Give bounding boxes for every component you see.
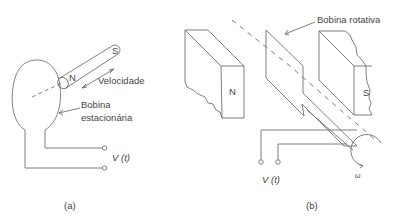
terminal-b-left [259, 160, 263, 164]
terminal-a-bottom [102, 166, 106, 170]
coil-b-label: Bobina rotativa [317, 15, 380, 25]
pole-n-label: N [229, 87, 236, 97]
wire-b-right [278, 144, 347, 160]
voltage-b-v: V [262, 174, 268, 185]
voltage-a-v: V [112, 152, 118, 163]
magnet-s-label: S [112, 46, 118, 56]
caption-a: (a) [64, 201, 76, 211]
axis-dashed-a [32, 82, 64, 97]
terminal-a-top [102, 146, 106, 150]
coil-a-label-2: estacionária [81, 113, 132, 123]
omega-label: ω [355, 172, 360, 179]
magnet-n-label: N [69, 73, 76, 83]
rotating-coil [266, 30, 357, 146]
pole-n [185, 30, 244, 118]
voltage-a-label: V (t) [112, 153, 130, 163]
diagram-canvas [0, 0, 396, 222]
terminal-b-right [276, 160, 280, 164]
pole-s-label: S [363, 88, 369, 98]
coil-a-label-1: Bobina [81, 100, 111, 110]
pole-s [319, 31, 372, 115]
coil-b-leader [285, 22, 315, 34]
stationary-coil [12, 60, 60, 168]
caption-b: (b) [306, 201, 318, 211]
rotation-arc [351, 134, 381, 166]
voltage-b-t: (t) [271, 174, 280, 185]
voltage-b-label: V (t) [262, 175, 280, 185]
velocity-label: Velocidade [98, 76, 144, 86]
voltage-a-t: (t) [121, 152, 130, 163]
